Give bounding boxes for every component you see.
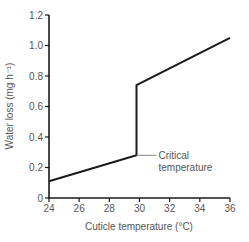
y-tick-label: 1.0 [29,40,43,51]
x-tick-label: 26 [74,203,86,214]
y-tick-label: 0.6 [29,101,43,112]
x-tick-label: 32 [164,203,176,214]
x-axis-title: Cuticle temperature (°C) [85,221,193,232]
x-tick-label: 34 [194,203,206,214]
y-tick-label: 0.2 [29,162,43,173]
x-tick-label: 28 [104,203,116,214]
chart: 00.20.40.60.81.01.224262830323436 Critic… [0,0,249,242]
x-tick-label: 24 [43,203,55,214]
x-tick-label: 30 [134,203,146,214]
tick-labels: 00.20.40.60.81.01.224262830323436 [29,10,236,215]
annotation-text-line1: Critical [158,150,189,161]
annotation: Criticaltemperature [136,150,212,173]
y-tick-label: 0.4 [29,132,43,143]
annotation-text-line2: temperature [158,162,212,173]
y-tick-label: 0 [37,193,43,204]
x-tick-label: 36 [224,203,236,214]
y-axis-title: Water loss (mg h⁻¹) [4,63,15,150]
data-series [49,38,230,181]
series-line [49,38,230,181]
y-tick-label: 0.8 [29,71,43,82]
y-tick-label: 1.2 [29,10,43,21]
